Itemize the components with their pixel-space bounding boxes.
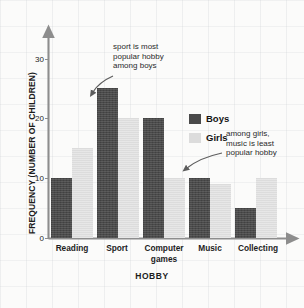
callout-sport-line3: among boys	[113, 61, 164, 71]
callout-music-line3: popular hobby	[226, 148, 277, 158]
bar-music-girls	[210, 184, 231, 238]
legend-swatch-girls	[189, 133, 201, 143]
callout-sport-line2: popular hobby	[113, 52, 164, 62]
bar-collecting-boys	[235, 208, 256, 238]
bar-sport-boys	[97, 88, 118, 238]
category-label-computer-line1: Computer	[144, 243, 183, 253]
category-label-collecting: Collecting	[228, 243, 288, 253]
legend-swatch-boys	[189, 114, 201, 124]
legend-label-boys: Boys	[206, 113, 229, 124]
callout-music-line2: music is least	[226, 139, 277, 149]
bar-reading-girls	[72, 148, 93, 238]
bar-sport-girls	[118, 118, 139, 238]
callout-music-girls: among girls, music is least popular hobb…	[226, 129, 277, 158]
x-axis-title: HOBBY	[0, 271, 304, 281]
chart-figure: FREQUENCY (NUMBER OF CHILDREN) 0 10 20 3…	[0, 0, 304, 308]
bar-chart-plot: FREQUENCY (NUMBER OF CHILDREN) 0 10 20 3…	[0, 0, 304, 308]
category-label-computer-line2: games	[133, 254, 195, 264]
bar-computer-games-girls	[164, 178, 185, 238]
callout-sport-boys: sport is most popular hobby among boys	[113, 42, 164, 71]
callout-music-line1: among girls,	[226, 129, 277, 139]
bar-music-boys	[189, 178, 210, 238]
y-tick-mark-0	[45, 238, 49, 239]
bar-computer-games-boys	[143, 118, 164, 238]
bar-collecting-girls	[256, 178, 277, 238]
bar-reading-boys	[51, 178, 72, 238]
bars-layer	[0, 0, 304, 238]
clipped-bottom-caption	[14, 299, 294, 308]
legend-label-girls: Girls	[206, 132, 228, 143]
callout-sport-line1: sport is most	[113, 42, 164, 52]
